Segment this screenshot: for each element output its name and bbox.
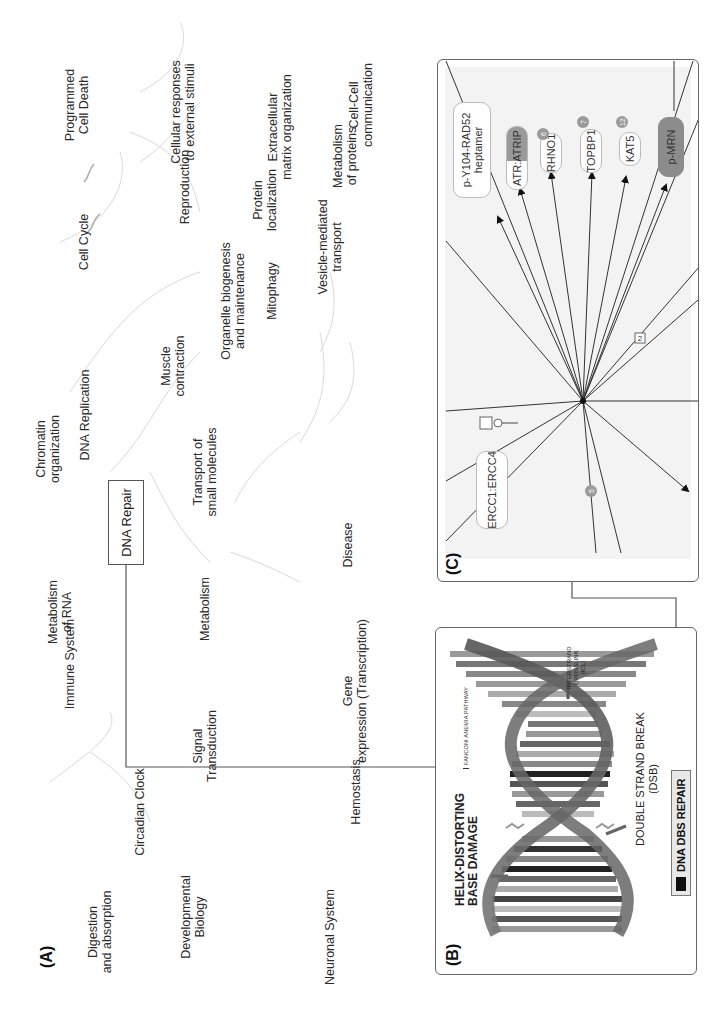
double-strand-break-label: DOUBLE STRAND BREAK (DSB) bbox=[634, 712, 660, 846]
node-label: KAT5 bbox=[624, 136, 636, 163]
node-label: TOPBP1 bbox=[585, 129, 597, 172]
node-label: p-Y104-RAD52 heptamer bbox=[460, 113, 484, 188]
bottom-node-badge: 5 bbox=[585, 485, 597, 497]
interstrand-crosslink-label: INTERSTRAND CROSSLINK (ICL) bbox=[566, 646, 587, 689]
dna-dbs-repair-legend: DNA DBS REPAIR bbox=[671, 770, 691, 896]
node-label: RHNO1 bbox=[545, 134, 557, 173]
node-label: ERCC1:ERCC4 bbox=[486, 451, 498, 529]
fanconi-anemia-pathway-label: FANCONI ANEMIA PATHWAY bbox=[463, 687, 469, 769]
panel-b-dna-damage: (B) bbox=[435, 627, 697, 975]
figure-canvas: (A) Digestion and absorption Immune Syst… bbox=[0, 0, 727, 1032]
node-rad52-heptamer[interactable]: p-Y104-RAD52 heptamer bbox=[453, 102, 491, 198]
node-label: ATR:ATRIP bbox=[511, 130, 523, 186]
node-topbp1-badge: 7 bbox=[577, 116, 589, 128]
node-ercc1-ercc4[interactable]: ERCC1:ERCC4 bbox=[476, 451, 508, 529]
edge-count-label: 2 bbox=[638, 334, 643, 343]
node-atr-atrip[interactable]: ATR:ATRIP bbox=[506, 126, 528, 190]
node-kat5[interactable]: KAT5 bbox=[619, 132, 641, 166]
node-p-mrn[interactable]: p-MRN bbox=[658, 117, 684, 177]
legend-label: DNA DBS REPAIR bbox=[675, 778, 687, 872]
node-topbp1[interactable]: TOPBP1 bbox=[580, 129, 602, 173]
helix-distorting-label: HELIX-DISTORTING BASE DAMAGE bbox=[454, 793, 480, 906]
legend-swatch bbox=[676, 877, 686, 891]
panel-c-reaction-network: (C) bbox=[437, 59, 699, 582]
node-rhno1-badge: 6 bbox=[537, 128, 549, 140]
node-kat5-badge: 12 bbox=[616, 116, 628, 128]
node-label: p-MRN bbox=[665, 130, 677, 165]
